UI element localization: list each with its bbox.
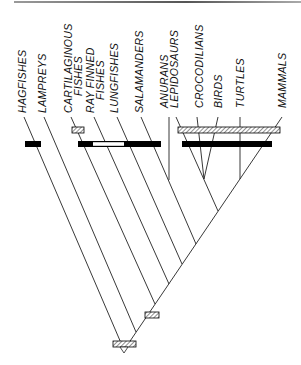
label-salamanders: SALAMANDERS [133,30,145,113]
gnathostome-hatched-box [145,312,159,318]
amniote-black-bar [182,141,272,147]
branch-birds [204,117,218,179]
hagfish-black-bar [25,141,41,147]
label-turtles: TURTLES [234,58,246,108]
label-lampreys: LAMPREYS [36,53,48,113]
branch-salamanders [141,117,196,244]
label-cartilaginous-2: FISHES [72,56,84,96]
branch-hagfishes [24,117,124,350]
branch-lampreys [44,117,136,332]
label-birds: BIRDS [212,74,224,108]
label-lepidosaurs: LEPIDOSAURS [168,30,180,108]
label-lungfishes: LUNGFISHES [108,43,120,113]
taxon-labels: HAGFISHES LAMPREYS CARTILAGINOUS FISHES … [16,24,288,113]
root-triangle-icon [120,347,128,353]
label-hagfishes: HAGFISHES [16,50,28,113]
label-crocodilians: CROCODILIANS [193,24,205,108]
amniote-hatched-bar [178,127,280,133]
label-mammals: MAMMALS [276,53,288,108]
cladogram: HAGFISHES LAMPREYS CARTILAGINOUS FISHES … [0,0,301,365]
cartilaginous-hatched-box [72,127,84,133]
label-rayfinned-2: FISHES [94,60,106,100]
root-hatched-box [113,341,136,347]
rayfinned-white-segment [93,142,124,146]
branch-crocodilians [197,117,204,179]
